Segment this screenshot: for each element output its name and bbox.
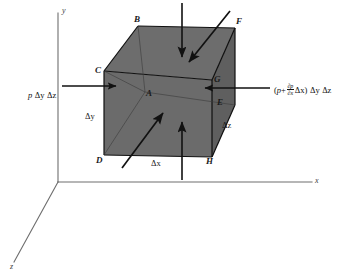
z-axis-label: z [10,262,13,271]
dimension-label-delta-z: Δz [222,120,231,130]
z-axis-line [14,182,58,262]
vertex-label-F: F [236,17,242,26]
right-force-plus: + [281,85,286,95]
vertex-label-H: H [206,157,213,166]
vertex-label-E: E [217,98,223,107]
pressure-element-diagram: y x z B F C G A E D H Δx Δy Δz p Δy Δz (… [0,0,350,280]
right-force-delta-y: Δy [310,85,320,95]
partial-derivative-fraction: ∂p ∂x [286,83,294,96]
cube-face-front [104,71,212,157]
vertex-label-A: A [146,89,152,98]
right-force-delta-z: Δz [322,85,331,95]
vertex-label-B: B [134,15,140,24]
y-axis-label: y [62,6,66,15]
x-axis-label: x [315,176,319,185]
fraction-denominator: ∂x [287,89,295,96]
pressure-force-left-label: p Δy Δz [28,90,56,100]
diagram-canvas [0,0,350,280]
dimension-label-delta-x: Δx [151,158,161,168]
vertex-label-D: D [96,156,103,165]
vertex-label-G: G [214,75,221,84]
dimension-label-delta-y: Δy [85,111,95,121]
pressure-force-right-label: ( p + ∂p ∂x Δx ) Δy Δz [274,83,331,96]
left-force-delta-z: Δz [47,90,56,100]
left-force-delta-y: Δy [35,90,45,100]
vertex-label-C: C [95,66,101,75]
right-force-delta-x: Δx [295,85,305,95]
right-force-close-paren: ) [305,85,308,95]
left-force-p: p [28,90,32,100]
